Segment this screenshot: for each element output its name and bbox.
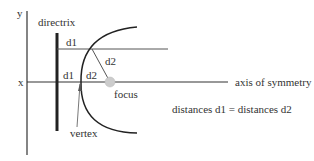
y-axis-label: y	[17, 7, 23, 19]
x-axis-label: x	[18, 76, 24, 88]
axis-of-symmetry-label: axis of symmetry	[235, 76, 312, 88]
distances-equation: distances d1 = distances d2	[172, 103, 292, 115]
d2-upper-label: d2	[105, 55, 116, 67]
d1-upper-label: d1	[66, 36, 77, 48]
parabola-diagram: y x axis of symmetry directrix d1 d2 d1 …	[0, 0, 314, 161]
focus-label: focus	[114, 88, 138, 100]
d2-lower-label: d2	[86, 69, 97, 81]
d1-lower-label: d1	[63, 69, 74, 81]
directrix-label: directrix	[38, 16, 76, 28]
focus-point	[105, 77, 115, 87]
vertex-label: vertex	[70, 127, 98, 139]
